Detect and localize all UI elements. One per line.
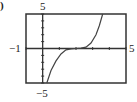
plot-area <box>0 0 137 102</box>
